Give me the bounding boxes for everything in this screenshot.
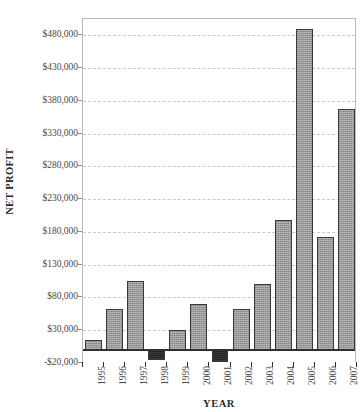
- plot-inner: [83, 19, 355, 362]
- x-axis-tick-label-2001: 2001: [223, 366, 233, 385]
- y-axis-tick-label: $230,000: [42, 193, 78, 203]
- gridline: [83, 134, 355, 135]
- gridline: [83, 265, 355, 266]
- y-axis-tick-label: $280,000: [42, 160, 78, 170]
- x-axis-tick-label-2006: 2006: [328, 366, 338, 385]
- x-axis-tick-label-2003: 2003: [265, 366, 275, 385]
- bar-2007: [338, 109, 355, 350]
- bar-2002: [233, 309, 250, 350]
- y-axis-tick-label: $480,000: [42, 29, 78, 39]
- bar-2000: [190, 304, 207, 350]
- y-axis-tick-label: $130,000: [42, 259, 78, 269]
- y-axis-tick-label: $330,000: [42, 128, 78, 138]
- x-axis-tick-label-2005: 2005: [307, 366, 317, 385]
- x-axis-tick-label-1995: 1995: [97, 366, 107, 385]
- y-axis-tick-label: $430,000: [42, 62, 78, 72]
- bar-1996: [106, 309, 123, 350]
- gridline: [83, 199, 355, 200]
- y-axis-title-label: NET PROFIT: [4, 148, 15, 215]
- x-axis-tick-label-2004: 2004: [286, 366, 296, 385]
- gridline: [83, 68, 355, 69]
- y-axis-tick-labels: -$20,000$30,000$80,000$130,000$180,000$2…: [14, 0, 82, 412]
- x-axis-title: YEAR: [82, 398, 356, 409]
- y-axis-tick-label: -$20,000: [44, 357, 78, 367]
- bar-1997: [127, 281, 144, 350]
- gridline: [83, 101, 355, 102]
- net-profit-bar-chart: NET PROFIT -$20,000$30,000$80,000$130,00…: [0, 0, 362, 412]
- y-axis-tick-label: $30,000: [47, 324, 78, 334]
- x-axis-tick-label-1999: 1999: [181, 366, 191, 385]
- bar-2005: [296, 29, 313, 350]
- x-axis-tick-label-2002: 2002: [244, 366, 254, 385]
- x-axis-tick-label-1998: 1998: [160, 366, 170, 385]
- gridline: [83, 166, 355, 167]
- x-axis-tick-labels: 1995199619971998199920002001200220032004…: [82, 366, 356, 400]
- gridline: [83, 232, 355, 233]
- y-axis-tick-label: $380,000: [42, 95, 78, 105]
- bar-1999: [169, 330, 186, 350]
- y-axis-tick-label: $80,000: [47, 291, 78, 301]
- bar-2003: [254, 284, 271, 350]
- x-axis-tick-label-2007: 2007: [349, 366, 359, 385]
- bar-2004: [275, 220, 292, 350]
- bar-1998: [148, 350, 165, 360]
- gridline: [83, 35, 355, 36]
- plot-area: [82, 18, 356, 362]
- gridline: [83, 330, 355, 331]
- bar-2006: [317, 237, 334, 350]
- gridline: [83, 297, 355, 298]
- x-axis-tick-label-1996: 1996: [118, 366, 128, 385]
- x-axis-tick-label-1997: 1997: [139, 366, 149, 385]
- y-axis-tick-label: $180,000: [42, 226, 78, 236]
- x-axis-tick-label-2000: 2000: [202, 366, 212, 385]
- bar-2001: [212, 350, 229, 362]
